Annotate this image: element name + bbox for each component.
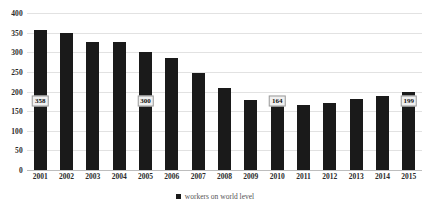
x-axis-tick-label: 2007 — [191, 172, 206, 181]
y-axis-tick-label: 50 — [15, 146, 23, 155]
y-axis-tick-label: 300 — [11, 48, 23, 57]
x-axis-tick-label: 2009 — [243, 172, 258, 181]
bars-layer: 358300164199 — [27, 13, 422, 170]
bar — [350, 99, 363, 170]
x-axis-tick-label: 2014 — [375, 172, 390, 181]
bar — [244, 100, 257, 170]
x-axis-tick-label: 2008 — [217, 172, 232, 181]
bar — [323, 103, 336, 171]
legend-swatch-icon — [176, 194, 181, 199]
x-axis-tick-label: 2003 — [85, 172, 100, 181]
x-axis-tick-label: 2001 — [33, 172, 48, 181]
bar — [113, 42, 126, 170]
bar-data-label: 199 — [401, 96, 418, 107]
x-axis-tick-label: 2005 — [138, 172, 153, 181]
bar — [165, 58, 178, 170]
bar — [271, 106, 284, 170]
x-axis-tick-label: 2010 — [270, 172, 285, 181]
x-axis-tick-label: 2013 — [349, 172, 364, 181]
bar-data-label: 164 — [269, 96, 286, 107]
x-axis-tick-label: 2012 — [322, 172, 337, 181]
bar — [376, 96, 389, 170]
y-axis-tick-label: 0 — [19, 166, 23, 175]
bar — [60, 33, 73, 170]
chart-legend: workers on world level — [0, 192, 430, 201]
y-axis-tick-label: 100 — [11, 126, 23, 135]
bar — [297, 105, 310, 170]
x-axis-tick-label: 2015 — [401, 172, 416, 181]
legend-label: workers on world level — [185, 192, 254, 201]
bar — [218, 88, 231, 170]
bar — [139, 52, 152, 170]
x-axis-tick-label: 2004 — [112, 172, 127, 181]
bar — [192, 73, 205, 170]
x-axis-tick-label: 2006 — [164, 172, 179, 181]
y-axis: 050100150200250300350400 — [0, 13, 27, 170]
x-axis-tick-label: 2011 — [296, 172, 311, 181]
bar — [86, 42, 99, 170]
y-axis-tick-label: 400 — [11, 9, 23, 18]
y-axis-tick-label: 350 — [11, 28, 23, 37]
y-axis-tick-label: 150 — [11, 107, 23, 116]
y-axis-tick-label: 200 — [11, 87, 23, 96]
plot-area: 358300164199 — [27, 13, 422, 170]
x-axis: 2001200220032004200520062007200820092010… — [27, 172, 422, 186]
x-axis-tick-label: 2002 — [59, 172, 74, 181]
bar-chart: 050100150200250300350400 358300164199 20… — [0, 0, 430, 213]
gridline — [27, 170, 422, 171]
y-axis-tick-label: 250 — [11, 67, 23, 76]
bar-data-label: 358 — [32, 96, 49, 107]
bar-data-label: 300 — [137, 96, 154, 107]
